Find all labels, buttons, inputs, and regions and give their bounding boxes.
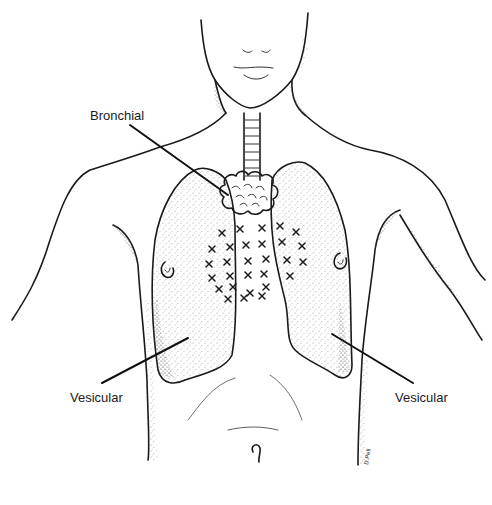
neck bbox=[214, 80, 310, 118]
label-bronchial: Bronchial bbox=[90, 108, 144, 123]
right-lung bbox=[271, 162, 352, 378]
label-vesicular-left: Vesicular bbox=[70, 390, 123, 405]
trachea bbox=[244, 113, 260, 180]
torso-outline bbox=[12, 113, 485, 465]
anatomical-illustration: D.Pell Bronchial Vesicular Vesicular bbox=[0, 0, 492, 505]
label-vesicular-right: Vesicular bbox=[395, 390, 448, 405]
